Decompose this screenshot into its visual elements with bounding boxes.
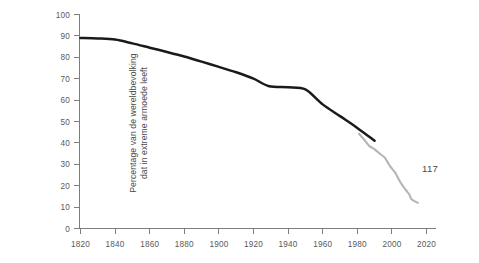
y-axis-title: Percentage van de wereldbevolking dat in… bbox=[18, 18, 48, 228]
x-tick-label-1840: 1840 bbox=[106, 240, 125, 249]
x-tick-marks bbox=[81, 229, 427, 235]
x-axis-group: 1820 1840 1860 1880 1900 1920 1940 1960 … bbox=[71, 229, 436, 250]
figure-container: 100 90 80 70 60 50 40 30 20 10 0 bbox=[0, 0, 479, 263]
page-number: 117 bbox=[422, 163, 438, 174]
x-tick-label-1880: 1880 bbox=[175, 240, 194, 249]
x-tick-label-1960: 1960 bbox=[313, 240, 332, 249]
x-tick-label-2000: 2000 bbox=[382, 240, 401, 249]
x-tick-label-1940: 1940 bbox=[279, 240, 298, 249]
x-tick-label-1980: 1980 bbox=[348, 240, 367, 249]
series-line-recent bbox=[359, 134, 418, 203]
x-tick-label-1900: 1900 bbox=[209, 240, 228, 249]
x-tick-label-1860: 1860 bbox=[140, 240, 159, 249]
x-tick-label-1920: 1920 bbox=[244, 240, 263, 249]
x-tick-label-1820: 1820 bbox=[71, 240, 90, 249]
y-axis-title-line-2: dat in extreme armoede leeft bbox=[39, 18, 249, 228]
x-tick-label-2020: 2020 bbox=[417, 240, 436, 249]
